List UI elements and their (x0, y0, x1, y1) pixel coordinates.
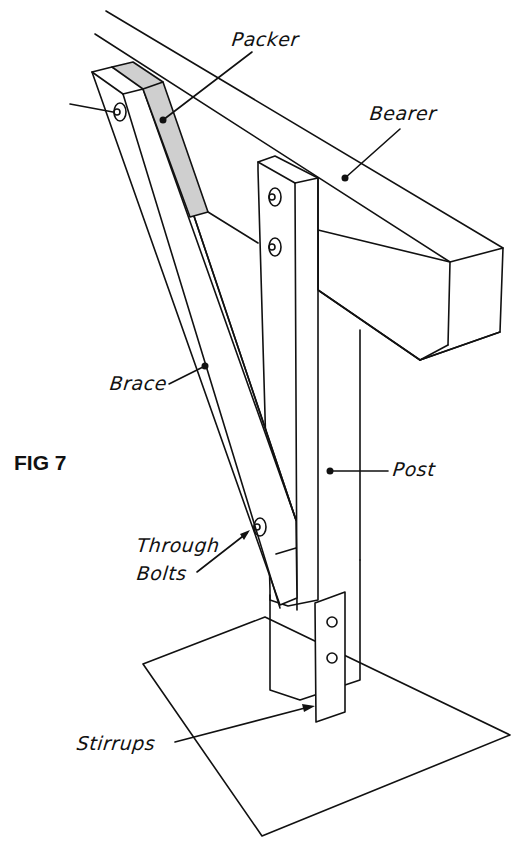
label-through-bolts-line1: Through (136, 534, 221, 556)
stirrup-plate (315, 592, 345, 722)
label-post: Post (392, 458, 437, 480)
diagram-drawing (0, 0, 532, 841)
label-packer: Packer (231, 28, 300, 50)
figure-title: FIG 7 (14, 451, 67, 475)
label-brace: Brace (109, 372, 168, 394)
label-bearer: Bearer (369, 102, 438, 124)
label-stirrups: Stirrups (76, 732, 157, 754)
label-through-bolts-line2: Bolts (136, 562, 188, 584)
